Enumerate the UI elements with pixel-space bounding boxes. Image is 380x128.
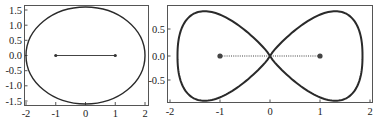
left-x-tick-label: 1 xyxy=(113,108,118,119)
right-plot: -2 -1 0 1 2 0.5 0.0 -0.5 xyxy=(148,6,372,118)
right-y-tick-label: 0.0 xyxy=(152,51,165,62)
right-x-tick-label: 2 xyxy=(367,106,372,117)
focus-point xyxy=(217,53,222,58)
left-y-tick-label: 1.5 xyxy=(9,5,22,16)
right-plot-frame xyxy=(168,6,373,103)
left-y-tick-label: 1.0 xyxy=(9,20,22,31)
focus-point xyxy=(317,53,322,58)
right-y-tick-label: 0.5 xyxy=(152,24,165,35)
focus-point xyxy=(114,54,117,57)
left-plot: -2 -1 0 1 2 1.5 1.0 0.5 0.0 -0.5 -1.0 -1… xyxy=(5,5,148,120)
left-x-tick-label: -2 xyxy=(22,108,31,119)
right-x-tick-label: 0 xyxy=(267,106,272,117)
right-y-tick-label: -0.5 xyxy=(148,75,165,86)
right-x-tick-label: -2 xyxy=(166,106,175,117)
left-x-tick-label: 2 xyxy=(142,108,147,119)
right-x-tick-label: -1 xyxy=(216,106,225,117)
left-y-tick-label: 0.0 xyxy=(9,50,22,61)
left-y-tick-label: -1.5 xyxy=(5,96,22,107)
left-x-tick-label: 0 xyxy=(83,108,88,119)
left-y-tick-label: 0.5 xyxy=(9,35,22,46)
left-y-tick-label: -0.5 xyxy=(5,65,22,76)
left-y-tick-label: -1.0 xyxy=(5,80,22,91)
left-x-tick-label: -1 xyxy=(51,108,60,119)
figure-eight-curve xyxy=(178,11,363,101)
right-x-tick-label: 1 xyxy=(317,106,322,117)
figure: -2 -1 0 1 2 1.5 1.0 0.5 0.0 -0.5 -1.0 -1… xyxy=(0,0,380,128)
focus-point xyxy=(54,54,57,57)
